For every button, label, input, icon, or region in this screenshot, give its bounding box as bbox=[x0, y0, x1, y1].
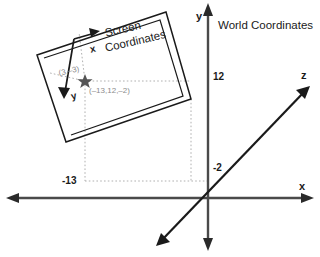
world-axes-group bbox=[12, 10, 308, 243]
world-z-axis-group bbox=[161, 91, 305, 241]
world-x-axis-arrow-left bbox=[6, 193, 19, 203]
screen-y-axis-arrow bbox=[58, 87, 70, 99]
world-x-tick-label: -13 bbox=[62, 176, 76, 186]
world-y-axis-arrow-down bbox=[203, 238, 213, 251]
world-z-tick-label: -2 bbox=[213, 163, 222, 173]
world-y-axis-arrow-up bbox=[203, 3, 213, 16]
world-z-axis-label: z bbox=[301, 70, 307, 81]
world-coordinates-title: World Coordinates bbox=[218, 20, 313, 32]
projection-dotted-lines bbox=[50, 32, 210, 181]
diagram-root: World Coordinates y x z 12 -2 -13 Screen… bbox=[0, 0, 320, 257]
world-y-tick-label: 12 bbox=[213, 72, 224, 82]
point-world-coords-label: (–13,12,–2) bbox=[89, 87, 130, 95]
world-x-axis-label: x bbox=[299, 181, 305, 192]
world-y-axis-label: y bbox=[196, 11, 202, 22]
world-z-axis-line bbox=[161, 91, 305, 241]
world-x-axis-arrow-right bbox=[301, 193, 314, 203]
